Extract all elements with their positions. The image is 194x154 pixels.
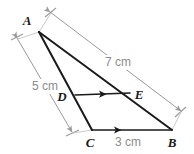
dimension-cb-group: 3 cm	[115, 135, 141, 149]
geometry-svg-canvas: 7 cm 5 cm 3 cm A B	[0, 0, 194, 154]
geometry-figure: 7 cm 5 cm 3 cm A B	[0, 0, 194, 154]
dimension-ac-tick-end	[66, 130, 79, 136]
dimension-ab-extension-b	[172, 112, 181, 130]
vertex-label-a: A	[22, 13, 32, 28]
vertex-label-e: E	[134, 87, 144, 102]
dimension-ab-extension-a	[39, 13, 51, 32]
dimension-ac-group: 5 cm	[11, 32, 92, 136]
vertex-label-b: B	[167, 135, 177, 150]
dimension-ab-group: 7 cm	[39, 8, 186, 130]
vertex-label-d: D	[56, 89, 67, 104]
dimension-ac-tick-start	[11, 34, 23, 40]
dimension-ac-label: 5 cm	[32, 79, 58, 93]
dimension-cb-label: 3 cm	[115, 135, 141, 149]
vertex-label-c: C	[86, 135, 95, 150]
dimension-ab-label: 7 cm	[105, 55, 131, 69]
